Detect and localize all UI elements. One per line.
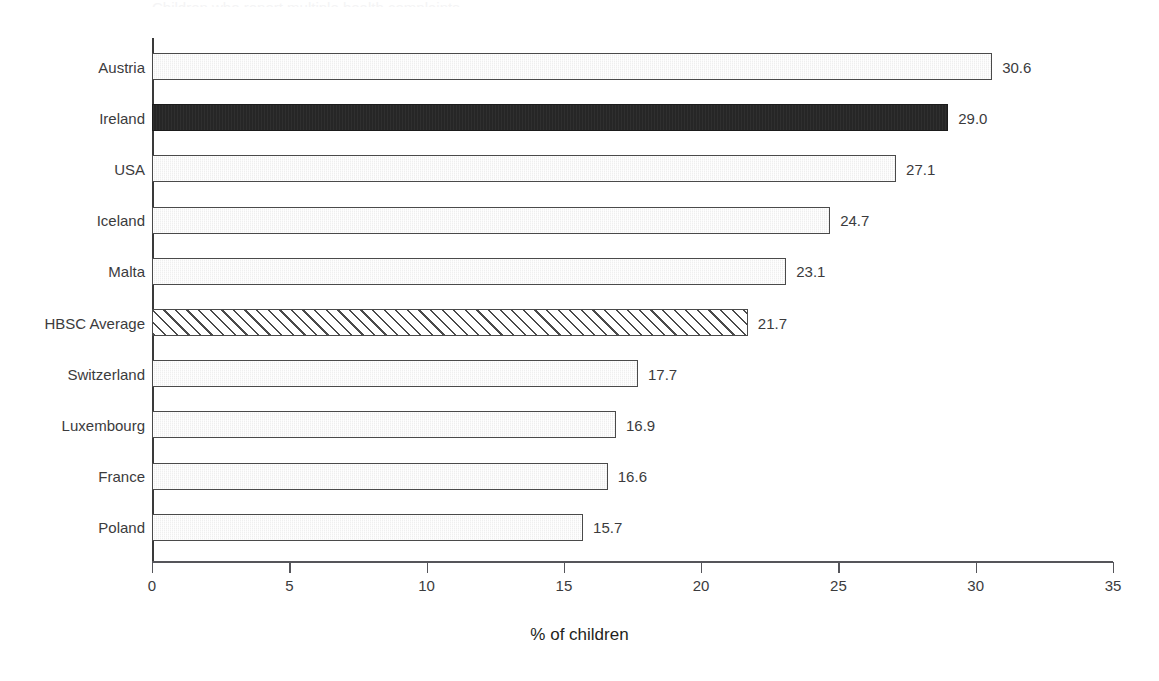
bar[interactable] xyxy=(152,207,830,234)
bar-row: Austria30.6 xyxy=(0,53,1159,80)
bar-value-label: 27.1 xyxy=(906,160,935,177)
x-tick-mark-25 xyxy=(838,562,839,573)
category-label: Switzerland xyxy=(67,365,145,382)
bar[interactable] xyxy=(152,360,638,387)
bar[interactable] xyxy=(152,258,786,285)
chart-title-cutoff: Children who report multiple health comp… xyxy=(152,0,772,7)
x-tick-mark-35 xyxy=(1113,562,1114,573)
bar-value-label: 21.7 xyxy=(758,314,787,331)
x-tick-mark-0 xyxy=(152,562,153,573)
bar-row: HBSC Average21.7 xyxy=(0,309,1159,336)
bar-value-label: 30.6 xyxy=(1002,58,1031,75)
category-label: Ireland xyxy=(99,109,145,126)
x-tick-label-25: 25 xyxy=(830,577,847,594)
bar[interactable] xyxy=(152,463,608,490)
bar-row: Ireland29.0 xyxy=(0,104,1159,131)
category-label: Austria xyxy=(98,58,145,75)
x-tick-mark-10 xyxy=(427,562,428,573)
category-label: France xyxy=(98,468,145,485)
x-tick-label-5: 5 xyxy=(285,577,293,594)
bar-row: Poland15.7 xyxy=(0,514,1159,541)
bar-value-label: 17.7 xyxy=(648,365,677,382)
x-tick-mark-30 xyxy=(976,562,977,573)
x-axis-title: % of children xyxy=(0,625,1159,645)
bar-chart: Children who report multiple health comp… xyxy=(0,0,1159,681)
bar[interactable] xyxy=(152,53,992,80)
bar-row: USA27.1 xyxy=(0,155,1159,182)
bar-value-label: 16.6 xyxy=(618,468,647,485)
bar-row: Switzerland17.7 xyxy=(0,360,1159,387)
bar-value-label: 29.0 xyxy=(958,109,987,126)
x-tick-label-30: 30 xyxy=(967,577,984,594)
x-tick-label-10: 10 xyxy=(418,577,435,594)
bar-value-label: 15.7 xyxy=(593,519,622,536)
x-axis-line xyxy=(152,561,1113,563)
x-tick-label-35: 35 xyxy=(1105,577,1122,594)
bar-row: Luxembourg16.9 xyxy=(0,411,1159,438)
bar[interactable] xyxy=(152,514,583,541)
bar[interactable] xyxy=(152,155,896,182)
category-label: HBSC Average xyxy=(44,314,145,331)
category-label: Poland xyxy=(98,519,145,536)
category-label: Malta xyxy=(108,263,145,280)
bar-value-label: 23.1 xyxy=(796,263,825,280)
category-label: USA xyxy=(114,160,145,177)
x-tick-label-0: 0 xyxy=(148,577,156,594)
bar-row: France16.6 xyxy=(0,463,1159,490)
bar-value-label: 16.9 xyxy=(626,416,655,433)
x-tick-label-20: 20 xyxy=(693,577,710,594)
bar[interactable] xyxy=(152,411,616,438)
x-tick-mark-15 xyxy=(564,562,565,573)
category-label: Luxembourg xyxy=(62,416,145,433)
bar-row: Iceland24.7 xyxy=(0,207,1159,234)
bar[interactable] xyxy=(152,104,948,131)
bar-row: Malta23.1 xyxy=(0,258,1159,285)
bar-value-label: 24.7 xyxy=(840,212,869,229)
x-tick-mark-20 xyxy=(701,562,702,573)
x-tick-label-15: 15 xyxy=(556,577,573,594)
category-label: Iceland xyxy=(97,212,145,229)
bar[interactable] xyxy=(152,309,748,336)
x-tick-mark-5 xyxy=(289,562,290,573)
